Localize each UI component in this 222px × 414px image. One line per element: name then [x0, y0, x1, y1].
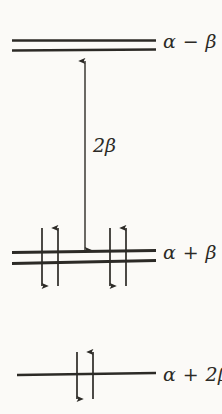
level-line-antibonding-b: [12, 50, 156, 51]
electron-arrows-nonbonding: [42, 228, 126, 286]
mo-energy-level-diagram: α − β α + β α + 2β 2β: [0, 0, 222, 414]
level-label-bonding: α + 2β: [163, 363, 222, 385]
level-label-nonbonding: α + β: [163, 241, 217, 263]
energy-level-antibonding: [12, 41, 156, 51]
diagram-canvas: [0, 0, 222, 414]
energy-gap-label: 2β: [93, 134, 116, 156]
energy-level-nonbonding: [12, 251, 156, 264]
level-line-nonbonding-a: [12, 251, 156, 253]
energy-level-bonding: [17, 373, 156, 375]
level-line-nonbonding-b: [12, 261, 156, 264]
level-line-bonding: [17, 373, 156, 375]
electron-arrows-bonding: [77, 352, 93, 399]
level-label-antibonding: α − β: [163, 30, 217, 52]
